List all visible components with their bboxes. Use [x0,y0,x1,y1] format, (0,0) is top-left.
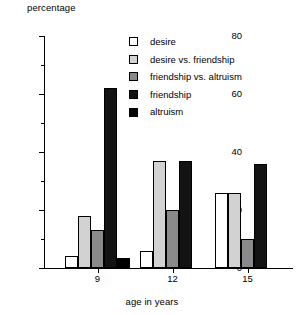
bar [65,256,78,268]
legend-swatch-icon [129,108,138,117]
legend-label: desire [150,37,176,47]
legend-label: altruism [150,107,183,117]
bar-group [65,36,131,268]
x-axis-title: age in years [0,296,304,307]
bar [215,193,228,268]
x-axis-line [44,268,293,269]
bar [91,230,104,268]
bar [140,251,153,268]
legend-swatch-icon [129,90,138,99]
bar [179,161,192,268]
y-tick-major [39,94,44,95]
legend-swatch-icon [129,72,138,81]
x-tick-label: 15 [228,274,268,284]
legend-item: altruism [129,103,242,121]
y-tick-minor [41,239,44,240]
legend-label: friendship vs. altruism [150,72,242,82]
bar [228,193,241,268]
y-tick-major [39,36,44,37]
legend-swatch-icon [129,55,138,64]
y-tick-minor [41,123,44,124]
legend-item: desire vs. friendship [129,51,242,69]
bar [166,210,179,268]
legend-label: friendship [150,90,191,100]
legend-swatch-icon [129,37,138,46]
bar-chart: percentage 020406080 91215 age in years … [0,0,304,315]
y-tick-major [39,268,44,269]
legend-item: desire [129,33,242,51]
y-tick-major [39,152,44,153]
x-tick-label: 9 [78,274,118,284]
legend-label: desire vs. friendship [150,55,234,65]
bar [104,88,117,268]
bar [153,161,166,268]
y-tick-minor [41,181,44,182]
bar [78,216,91,268]
y-tick-minor [41,65,44,66]
x-tick-label: 12 [153,274,193,284]
chart-legend: desiredesire vs. friendshipfriendship vs… [129,33,242,121]
bar [254,164,267,268]
y-axis-title: percentage [27,2,76,13]
bar [241,239,254,268]
y-tick-major [39,210,44,211]
legend-item: friendship vs. altruism [129,68,242,86]
bar [117,258,130,268]
legend-item: friendship [129,86,242,104]
